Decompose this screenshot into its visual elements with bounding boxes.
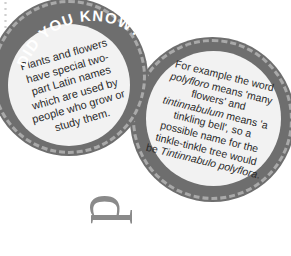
svg-text:DID YOU KNOW?: DID YOU KNOW? [13, 7, 147, 69]
example-text: For example the word polyfloro means 'ma… [144, 55, 283, 181]
decorative-letter: p [67, 194, 129, 225]
did-you-know-heading: DID YOU KNOW? [12, 2, 152, 62]
example-badge-content: For example the word polyfloro means 'ma… [146, 51, 281, 186]
